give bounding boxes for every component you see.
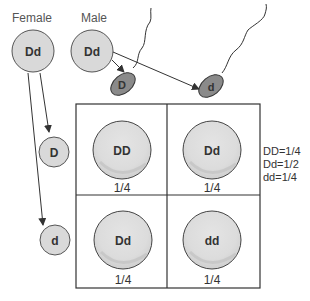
female-parent-cell: Dd — [12, 30, 54, 72]
egg-D-allele: D — [50, 146, 59, 160]
cell-genotype: DD — [113, 144, 131, 158]
male-label: Male — [81, 11, 107, 25]
punnett-cell-Dd-top: Dd 1/4 — [183, 121, 241, 195]
sperm-d-allele: d — [208, 81, 215, 93]
ratio-DD: DD=1/4 — [263, 145, 301, 157]
egg-D: D — [39, 137, 69, 167]
egg-d: d — [40, 225, 70, 255]
cell-genotype: Dd — [115, 234, 131, 248]
cell-fraction: 1/4 — [204, 181, 221, 195]
male-parent-cell: Dd — [71, 30, 113, 72]
female-genotype: Dd — [25, 45, 41, 59]
cell-fraction: 1/4 — [115, 273, 132, 287]
arrow-female-to-egg-D — [40, 73, 49, 132]
cell-genotype: dd — [205, 234, 220, 248]
punnett-diagram: Female Male Dd Dd D d D d — [0, 0, 310, 301]
punnett-cell-Dd-bottom: Dd 1/4 — [94, 211, 152, 287]
flagellum — [222, 4, 266, 73]
punnett-cell-DD: DD 1/4 — [93, 121, 151, 195]
female-label: Female — [12, 11, 52, 25]
arrow-male-to-sperm-D — [112, 60, 124, 72]
egg-d-allele: d — [51, 234, 58, 248]
genotype-ratios: DD=1/4 Dd=1/2 dd=1/4 — [263, 145, 301, 183]
male-genotype: Dd — [84, 45, 100, 59]
punnett-cell-dd: dd 1/4 — [183, 211, 241, 287]
cell-fraction: 1/4 — [204, 273, 221, 287]
ratio-dd: dd=1/4 — [263, 171, 297, 183]
sperm-D-allele: D — [118, 79, 126, 91]
cell-genotype: Dd — [204, 144, 220, 158]
cell-fraction: 1/4 — [114, 181, 131, 195]
sperm-d: d — [194, 4, 266, 102]
ratio-Dd: Dd=1/2 — [263, 158, 299, 170]
flagellum — [133, 8, 151, 68]
